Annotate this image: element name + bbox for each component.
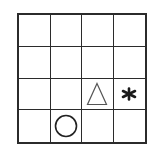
grid-cell-r3-c2[interactable] bbox=[82, 110, 114, 142]
grid-cell-r1-c3[interactable] bbox=[114, 47, 146, 79]
grid-cell-r3-c1[interactable] bbox=[51, 110, 83, 142]
grid-cell-r2-c0[interactable] bbox=[19, 79, 51, 111]
puzzle-grid bbox=[17, 13, 147, 144]
grid-cell-r2-c3[interactable] bbox=[114, 79, 146, 111]
grid-cell-r1-c1[interactable] bbox=[51, 47, 83, 79]
grid-cell-r0-c1[interactable] bbox=[51, 15, 83, 47]
grid-cell-r3-c3[interactable] bbox=[114, 110, 146, 142]
grid-cell-r0-c0[interactable] bbox=[19, 15, 51, 47]
circle-icon bbox=[54, 114, 78, 138]
grid-cell-r2-c1[interactable] bbox=[51, 79, 83, 111]
grid-cell-r1-c0[interactable] bbox=[19, 47, 51, 79]
grid-cell-r0-c3[interactable] bbox=[114, 15, 146, 47]
triangle-icon bbox=[86, 82, 108, 106]
grid-cell-r2-c2[interactable] bbox=[82, 79, 114, 111]
grid-cell-r1-c2[interactable] bbox=[82, 47, 114, 79]
asterisk-icon bbox=[121, 87, 137, 101]
grid-cell-r0-c2[interactable] bbox=[82, 15, 114, 47]
grid-cell-r3-c0[interactable] bbox=[19, 110, 51, 142]
